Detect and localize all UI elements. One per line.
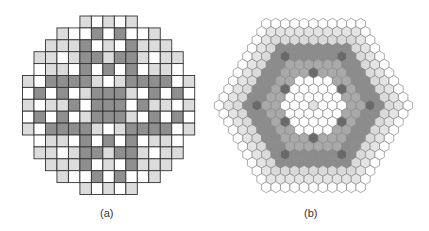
hex-cell bbox=[356, 182, 365, 193]
hex-cell bbox=[309, 182, 318, 193]
hexagonal-lattice-grid bbox=[0, 0, 429, 231]
hex-cell bbox=[262, 182, 271, 193]
hex-cell bbox=[347, 182, 356, 193]
hex-cell bbox=[299, 182, 308, 193]
hex-cell bbox=[280, 182, 289, 193]
hex-cell bbox=[271, 182, 280, 193]
hex-cell bbox=[318, 182, 327, 193]
hex-cell bbox=[328, 182, 337, 193]
caption-a: (a) bbox=[100, 207, 113, 219]
caption-b: (b) bbox=[304, 207, 317, 219]
hex-cell bbox=[290, 182, 299, 193]
hex-cell bbox=[337, 182, 346, 193]
